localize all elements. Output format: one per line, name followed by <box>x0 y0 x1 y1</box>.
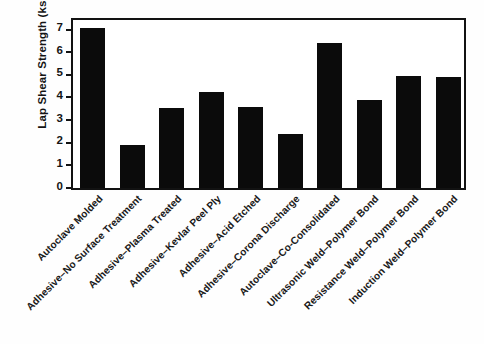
bar <box>159 108 184 188</box>
y-axis-tick-label: 7 <box>57 21 63 33</box>
y-axis-tick-label: 3 <box>57 112 63 124</box>
bar-chart-figure: Lap Shear Strength (ksi) 01234567 Autocl… <box>0 0 484 344</box>
x-axis-tick-labels: Autoclave MoldedAdhesive–No Surface Trea… <box>71 193 466 343</box>
y-axis-tick-mark <box>66 29 73 31</box>
y-axis-tick-mark <box>66 51 73 53</box>
bar <box>199 92 224 188</box>
bar <box>80 28 105 188</box>
y-axis-tick-mark <box>66 96 73 98</box>
y-axis-tick-label: 5 <box>57 66 63 78</box>
y-axis-tick-label: 2 <box>57 134 63 146</box>
y-axis-tick-label: 4 <box>57 89 63 101</box>
y-axis-tick-label: 6 <box>57 44 63 56</box>
y-axis-tick-mark <box>66 119 73 121</box>
y-axis-tick-mark <box>66 164 73 166</box>
y-axis-tick-mark <box>66 142 73 144</box>
bar <box>120 145 145 188</box>
bar-series <box>73 20 464 188</box>
bar <box>238 107 263 188</box>
bar <box>317 43 342 188</box>
y-axis-tick-label: 0 <box>57 180 63 192</box>
y-axis-tick-mark <box>66 187 73 189</box>
bar <box>396 76 421 188</box>
bar <box>436 77 461 188</box>
y-axis-tick-mark <box>66 74 73 76</box>
bar <box>278 134 303 188</box>
y-axis-tick-label: 1 <box>57 157 63 169</box>
plot-area: 01234567 <box>71 18 466 190</box>
y-axis-title: Lap Shear Strength (ksi) <box>33 0 51 151</box>
x-axis-tick-label: Autoclave Molded <box>35 193 105 263</box>
bar <box>357 100 382 188</box>
